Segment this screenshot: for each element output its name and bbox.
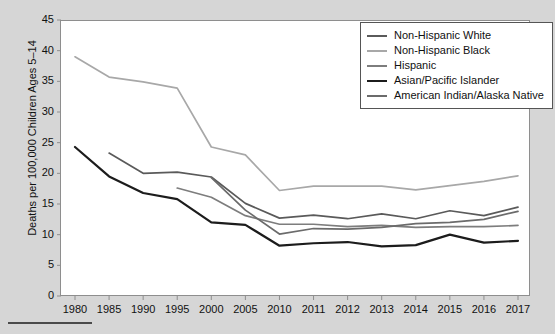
legend-item[interactable]: American Indian/Alaska Native xyxy=(367,88,544,103)
legend-item[interactable]: Asian/Pacific Islander xyxy=(367,73,544,88)
legend-item[interactable]: Non-Hispanic White xyxy=(367,28,544,43)
legend-label: Non-Hispanic White xyxy=(394,30,491,41)
legend-swatch xyxy=(367,80,387,82)
legend-label: Asian/Pacific Islander xyxy=(394,75,499,86)
legend-swatch xyxy=(367,95,387,97)
chart-legend: Non-Hispanic WhiteNon-Hispanic BlackHisp… xyxy=(360,22,553,109)
legend-label: Non-Hispanic Black xyxy=(394,45,490,56)
legend-swatch xyxy=(367,50,387,52)
legend-label: American Indian/Alaska Native xyxy=(394,90,544,101)
legend-swatch xyxy=(367,35,387,37)
footer-divider xyxy=(8,322,92,324)
legend-label: Hispanic xyxy=(394,60,436,71)
chart-container: Deaths per 100,000 Children Ages 5–14 05… xyxy=(0,0,555,334)
legend-swatch xyxy=(367,65,387,67)
legend-item[interactable]: Hispanic xyxy=(367,58,544,73)
legend-item[interactable]: Non-Hispanic Black xyxy=(367,43,544,58)
